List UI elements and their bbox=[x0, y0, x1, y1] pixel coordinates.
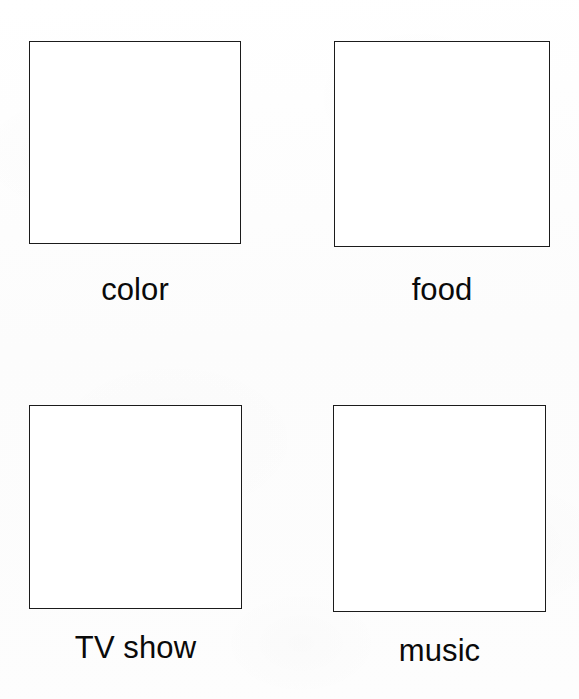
answer-box-food[interactable] bbox=[334, 41, 550, 247]
grid-cell-music: music bbox=[333, 405, 546, 670]
answer-box-tv-show[interactable] bbox=[29, 405, 242, 609]
cell-label-music: music bbox=[333, 634, 546, 668]
grid-cell-color: color bbox=[29, 41, 241, 303]
worksheet-grid: color food TV show music bbox=[0, 0, 579, 699]
cell-label-food: food bbox=[334, 273, 550, 307]
answer-box-music[interactable] bbox=[333, 405, 546, 612]
grid-cell-food: food bbox=[334, 41, 550, 303]
cell-label-color: color bbox=[29, 273, 241, 307]
grid-cell-tv-show: TV show bbox=[29, 405, 242, 670]
answer-box-color[interactable] bbox=[29, 41, 241, 244]
cell-label-tv-show: TV show bbox=[29, 631, 242, 665]
